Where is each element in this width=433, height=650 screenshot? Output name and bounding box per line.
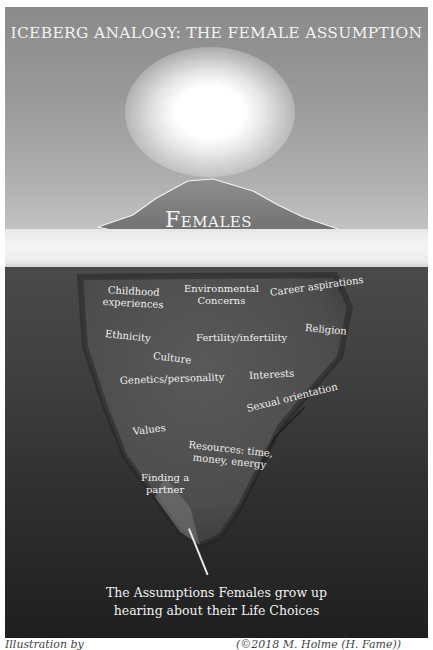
footer-line-1: The Assumptions Females grow up [5, 584, 428, 602]
caption-right: (©2018 M. Holme (H. Fame)) [236, 638, 401, 650]
submerged-label: Fertility/infertility [196, 332, 287, 344]
waterline-mist [5, 229, 428, 271]
submerged-label: Interests [249, 368, 295, 382]
tip-label: Females [165, 207, 252, 232]
submerged-label: Childhoodexperiences [102, 284, 164, 311]
submerged-label: Finding apartner [141, 472, 189, 496]
submerged-label: EnvironmentalConcerns [184, 283, 259, 307]
poster-title: ICEBERG ANALOGY: THE FEMALE ASSUMPTION [5, 24, 428, 42]
footer-text: The Assumptions Females grow up hearing … [5, 584, 428, 620]
iceberg-illustration: ICEBERG ANALOGY: THE FEMALE ASSUMPTION F… [5, 7, 428, 638]
footer-line-2: hearing about their Life Choices [5, 602, 428, 620]
sun-glow [125, 47, 295, 177]
caption-left: Illustration by [5, 638, 84, 650]
